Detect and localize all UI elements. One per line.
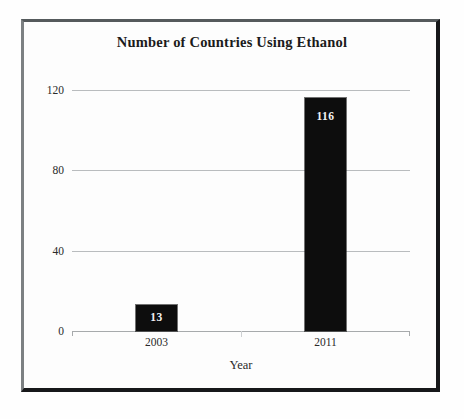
y-axis-tick-label-40: 40 [53, 245, 65, 257]
chart-title: Number of Countries Using Ethanol [0, 34, 464, 51]
axis-end-tick-right [409, 331, 410, 336]
gridline-120 [72, 90, 410, 91]
y-axis-tick-label-120: 120 [47, 84, 64, 96]
gridline-80 [72, 170, 410, 171]
x-axis-title: Year [72, 358, 410, 373]
bar-value-label-2011: 116 [305, 110, 346, 122]
bar-value-label-2003: 13 [136, 311, 177, 323]
axis-end-tick-left [72, 331, 73, 336]
x-axis-category-label-2011: 2011 [314, 336, 337, 348]
chart-page: Number of Countries Using Ethanol 040801… [0, 0, 464, 419]
plot-area: 040801201320031162011 [72, 90, 410, 331]
category-boundary-tick [241, 331, 242, 337]
gridline-40 [72, 251, 410, 252]
bar-2003[interactable]: 13 [136, 305, 177, 331]
bar-2011[interactable]: 116 [305, 98, 346, 331]
x-axis-category-label-2003: 2003 [145, 336, 168, 348]
y-axis-tick-label-0: 0 [58, 325, 64, 337]
y-axis-tick-label-80: 80 [53, 164, 65, 176]
